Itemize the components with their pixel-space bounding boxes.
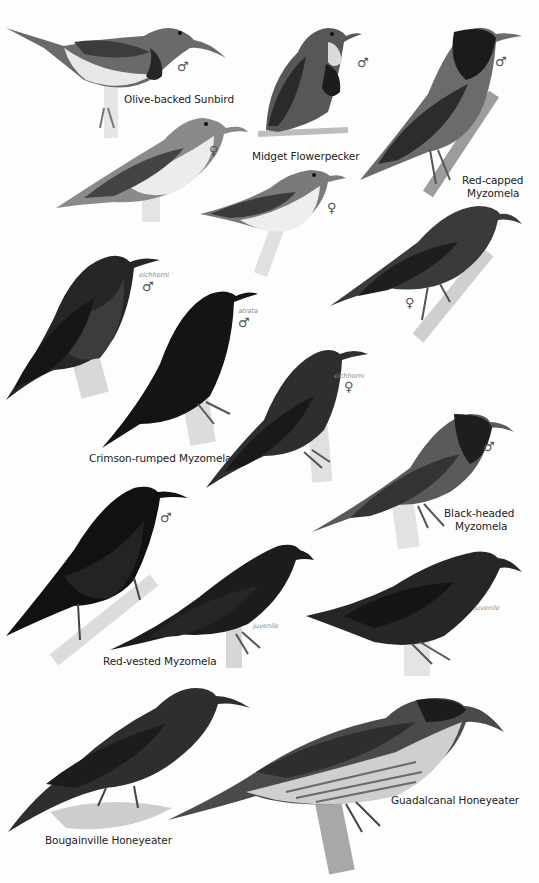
- female-symbol: ♀: [344, 380, 354, 393]
- male-symbol: ♂: [483, 440, 495, 453]
- female-symbol: ♀: [405, 296, 415, 309]
- female-symbol: ♀: [209, 144, 219, 157]
- field-guide-plate: ♂ Olive-backed Sunbird ♀ ♂ Midget Flower…: [0, 0, 539, 883]
- midget-flowerpecker-male-illustration: [258, 22, 368, 147]
- species-label-bougainville-honeyeater: Bougainville Honeyeater: [45, 834, 172, 847]
- species-label-black-headed-line1: Black-headed: [444, 507, 514, 520]
- guadalcanal-honeyeater-illustration: [166, 692, 526, 872]
- subspecies-label-atrata: atrata: [234, 307, 262, 315]
- species-label-guadalcanal-honeyeater: Guadalcanal Honeyeater: [391, 794, 519, 807]
- species-label-black-headed-line2: Myzomela: [455, 520, 507, 533]
- red-capped-myzomela-female-illustration: [328, 202, 528, 342]
- red-vested-myzomela-juvenile-illustration: [108, 538, 318, 668]
- species-label-red-capped-line2: Myzomela: [467, 187, 519, 200]
- species-label-midget-flowerpecker: Midget Flowerpecker: [252, 150, 359, 163]
- male-symbol: ♂: [495, 55, 507, 68]
- juvenile-label: juvenile: [252, 622, 280, 630]
- male-symbol: ♂: [238, 316, 250, 329]
- species-label-red-capped-line1: Red-capped: [462, 174, 523, 187]
- subspecies-label-eichhorni: eichhorni: [136, 271, 172, 279]
- juvenile-label: juvenile: [473, 604, 501, 612]
- male-symbol: ♂: [177, 60, 189, 73]
- species-label-olive-backed-sunbird: Olive-backed Sunbird: [124, 93, 234, 106]
- male-symbol: ♂: [160, 511, 172, 524]
